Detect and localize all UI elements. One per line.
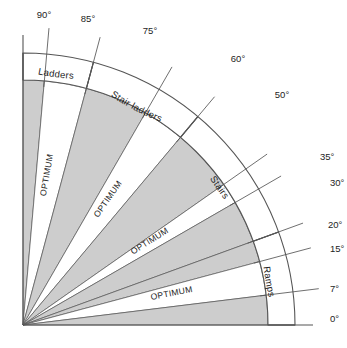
tick-label-15: 15° [330,243,345,254]
tick-label-50: 50° [275,89,290,100]
tick-label-7: 7° [330,283,339,294]
tick-label-35: 35° [320,151,335,162]
angle-diagram: 90°85°75°60°50°35°30°20°15°7°0°LaddersSt… [0,0,347,348]
tick-label-85: 85° [81,13,96,24]
tick-label-20: 20° [328,219,343,230]
tick-label-90: 90° [37,9,52,20]
angle-diagram-svg: 90°85°75°60°50°35°30°20°15°7°0°LaddersSt… [0,0,347,348]
tick-label-0: 0° [330,313,339,324]
tick-label-30: 30° [330,177,345,188]
tick-label-60: 60° [231,53,246,64]
tick-label-75: 75° [143,25,158,36]
